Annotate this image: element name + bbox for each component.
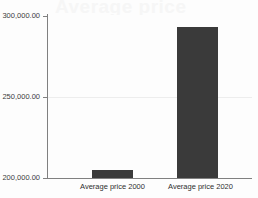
bar-average-price-2000[interactable] bbox=[92, 170, 133, 178]
gridline-250000 bbox=[48, 97, 252, 98]
y-tick-label-250000: 250,000.00 bbox=[0, 92, 40, 101]
y-tick-mark-200000 bbox=[43, 178, 47, 179]
y-tick-label-300000: 300,000.00 bbox=[0, 11, 40, 20]
x-axis-line bbox=[47, 178, 252, 179]
watermark-text: Average price bbox=[55, 0, 255, 15]
bar-chart: Average price 300,000.00 250,000.00 200,… bbox=[0, 0, 258, 198]
y-axis-line bbox=[47, 14, 48, 179]
x-tick-label-average-price-2020: Average price 2020 bbox=[148, 182, 253, 192]
bar-average-price-2020[interactable] bbox=[177, 27, 218, 178]
y-tick-mark-300000 bbox=[43, 16, 47, 17]
y-tick-label-200000: 200,000.00 bbox=[0, 173, 40, 182]
y-tick-mark-250000 bbox=[43, 97, 47, 98]
